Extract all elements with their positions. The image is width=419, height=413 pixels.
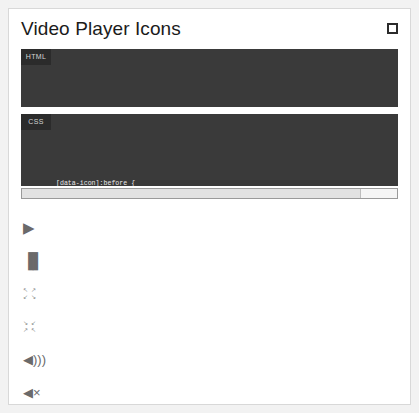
square-box-icon[interactable] — [387, 23, 398, 34]
html-code-block[interactable]: HTML <div class="btn_play"> <span aria-h… — [21, 49, 398, 107]
card-header: Video Player Icons — [9, 9, 410, 49]
volume-mute-icon[interactable]: ◀× — [23, 386, 41, 399]
arrow-bottom-left: ↙ — [23, 294, 28, 300]
volume-on-icon[interactable]: ◀))) — [23, 353, 46, 366]
page-title: Video Player Icons — [21, 17, 398, 41]
icon-row-pause[interactable]: ▐▌ — [23, 244, 410, 277]
arrow-bottom-right: ↖ — [31, 327, 36, 333]
scrollbar-thumb[interactable] — [22, 189, 361, 198]
css-code-lines: [data-icon]:before { font-family: 'icon-… — [21, 155, 398, 186]
icon-row-fullscreen-expand[interactable]: ↖ ↗ ↙ ↘ — [23, 277, 410, 310]
icon-list: ▶ ▐▌ ↖ ↗ ↙ ↘ ↘ ↙ ↗ ↖ — [9, 211, 410, 405]
pause-icon[interactable]: ▐▌ — [23, 253, 42, 268]
code-samples: HTML <div class="btn_play"> <span aria-h… — [9, 49, 410, 186]
horizontal-scrollbar[interactable] — [21, 188, 398, 199]
css-language-tag: CSS — [21, 114, 51, 130]
square-box-inner — [390, 26, 395, 31]
code-line: [data-icon]:before { — [56, 178, 394, 186]
content-card: Video Player Icons HTML <div class="btn_… — [8, 8, 411, 405]
icon-row-volume-mute[interactable]: ◀× — [23, 376, 410, 405]
arrow-bottom-right: ↘ — [31, 294, 36, 300]
fullscreen-expand-icon[interactable]: ↖ ↗ ↙ ↘ — [23, 287, 36, 300]
icon-row-fullscreen-collapse[interactable]: ↘ ↙ ↗ ↖ — [23, 310, 410, 343]
html-language-tag: HTML — [21, 49, 51, 65]
icon-row-volume-on[interactable]: ◀))) — [23, 343, 410, 376]
html-code-lines: <div class="btn_play"> <span aria-hidden… — [21, 90, 398, 107]
arrow-bottom-left: ↗ — [23, 327, 28, 333]
page-root: Video Player Icons HTML <div class="btn_… — [0, 0, 419, 413]
icon-row-play[interactable]: ▶ — [23, 211, 410, 244]
play-icon[interactable]: ▶ — [23, 220, 35, 235]
css-code-block[interactable]: CSS [data-icon]:before { font-family: 'i… — [21, 114, 398, 186]
fullscreen-collapse-icon[interactable]: ↘ ↙ ↗ ↖ — [23, 320, 36, 333]
